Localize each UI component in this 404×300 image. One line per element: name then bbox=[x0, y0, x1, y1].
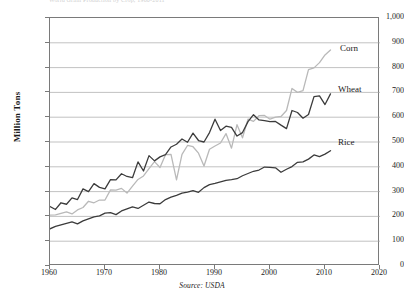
x-tick-label: 1990 bbox=[194, 268, 234, 277]
x-tick-label: 2020 bbox=[359, 268, 399, 277]
x-tick-label: 1960 bbox=[29, 268, 69, 277]
x-tick-label: 2000 bbox=[249, 268, 289, 277]
series-line-rice bbox=[50, 151, 331, 229]
chart-title: World Grain Production by Crop, 1960-201… bbox=[49, 0, 349, 4]
plot-area bbox=[49, 17, 379, 265]
series-label-wheat: Wheat bbox=[338, 84, 361, 94]
series-line-wheat bbox=[50, 94, 331, 210]
x-tick-label: 1980 bbox=[139, 268, 179, 277]
x-tick-label: 2010 bbox=[304, 268, 344, 277]
source-note: Source: USDA bbox=[0, 281, 404, 290]
plot-svg bbox=[50, 18, 380, 266]
series-label-rice: Rice bbox=[338, 137, 355, 147]
series-label-corn: Corn bbox=[340, 43, 358, 53]
x-tick-label: 1970 bbox=[84, 268, 124, 277]
series-line-corn bbox=[50, 50, 331, 215]
chart-root: World Grain Production by Crop, 1960-201… bbox=[0, 0, 404, 300]
y-axis-title: Million Tons bbox=[12, 77, 26, 157]
